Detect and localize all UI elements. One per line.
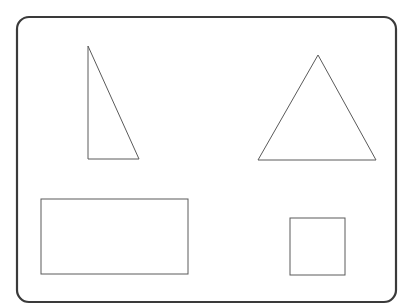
rectangle [41,199,188,274]
shapes-diagram [0,0,413,308]
equilateral-triangle [258,55,376,160]
square [290,218,345,275]
right-triangle [88,46,139,159]
